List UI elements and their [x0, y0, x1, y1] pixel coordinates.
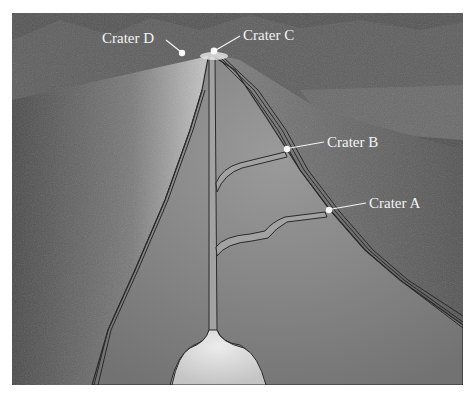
crater-d-marker — [179, 50, 185, 56]
crater-b-marker — [284, 146, 290, 152]
volcano-illustration: Crater D Crater C Crater B Crater A — [12, 13, 463, 385]
crater-d-label: Crater D — [102, 30, 154, 46]
crater-c-marker — [211, 48, 218, 55]
volcano-cutaway-figure: Crater D Crater C Crater B Crater A — [12, 13, 463, 385]
crater-c-label: Crater C — [243, 27, 294, 43]
crater-b-label: Crater B — [327, 134, 378, 150]
crater-a-marker — [326, 207, 332, 213]
crater-a-label: Crater A — [369, 195, 420, 211]
